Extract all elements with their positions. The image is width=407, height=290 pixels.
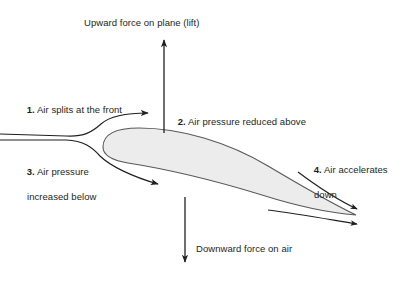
annotation-1-text: Air splits at the front bbox=[35, 104, 122, 115]
annotation-3-text-line1: Air pressure bbox=[35, 166, 89, 177]
annotation-4-number: 4. bbox=[314, 164, 322, 175]
annotation-3-text-line2: increased below bbox=[16, 191, 96, 204]
annotation-1-number: 1. bbox=[27, 104, 35, 115]
annotation-3: 3. Air pressure increased below bbox=[16, 153, 96, 228]
annotation-1: 1. Air splits at the front bbox=[16, 91, 122, 129]
annotation-4-text-line2: down bbox=[303, 189, 388, 202]
annotation-4: 4. Air accelerates down bbox=[303, 151, 388, 226]
downward-force-label: Downward force on air bbox=[196, 243, 292, 256]
annotation-3-number: 3. bbox=[27, 166, 35, 177]
annotation-2-text: Air pressure reduced above bbox=[186, 116, 306, 127]
annotation-4-text-line1: Air accelerates bbox=[322, 164, 388, 175]
lift-label: Upward force on plane (lift) bbox=[84, 17, 199, 30]
annotation-2-number: 2. bbox=[178, 116, 186, 127]
annotation-2: 2. Air pressure reduced above bbox=[167, 103, 306, 141]
airfoil-lift-diagram: Upward force on plane (lift) 1. Air spli… bbox=[0, 0, 407, 290]
